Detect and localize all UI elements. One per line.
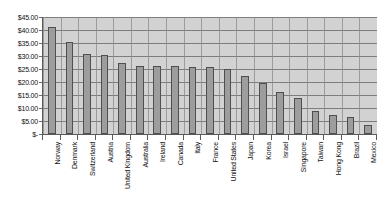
category-separator [61, 17, 62, 134]
x-axis-tick-mark [112, 135, 113, 140]
x-axis-category-label: United Kingdom [124, 142, 131, 189]
bar [171, 66, 179, 134]
x-axis-tick-mark [183, 135, 184, 140]
x-axis-tick-mark [165, 135, 166, 140]
bar [206, 67, 214, 134]
category-separator [78, 17, 79, 134]
bar [224, 69, 232, 134]
x-axis-category-label: Japan [247, 142, 254, 160]
category-separator [131, 17, 132, 134]
y-axis-tick-label: $30.00 [18, 53, 38, 60]
x-axis-tick-mark [253, 135, 254, 140]
x-axis-tick-mark [200, 135, 201, 140]
y-axis-tick-label: $15.00 [18, 92, 38, 99]
bar [364, 125, 372, 134]
category-separator [342, 17, 343, 134]
x-axis-category-label: Norway [54, 142, 61, 165]
y-axis: $45.00$40.00$35.00$30.00$25.00$20.00$15.… [0, 0, 42, 140]
category-separator [201, 17, 202, 134]
gridline [43, 56, 377, 57]
x-axis-category-label: Singapore [300, 142, 307, 172]
bar [83, 54, 91, 134]
y-axis-tick-label: $25.00 [18, 66, 38, 73]
bar [48, 27, 56, 134]
bar [276, 92, 284, 134]
x-axis-category-label: Mexico [370, 142, 377, 163]
category-separator [289, 17, 290, 134]
y-axis-tick-label: $10.00 [18, 105, 38, 112]
y-axis-tick-label: $5.00 [21, 118, 38, 125]
bar [259, 83, 267, 134]
category-separator [219, 17, 220, 134]
x-axis-tick-mark [77, 135, 78, 140]
category-separator [272, 17, 273, 134]
x-axis-tick-mark [235, 135, 236, 140]
y-axis-tick-label: $20.00 [18, 79, 38, 86]
category-separator [96, 17, 97, 134]
x-axis-tick-mark [147, 135, 148, 140]
x-axis-tick-mark [130, 135, 131, 140]
category-separator [166, 17, 167, 134]
gridline [43, 17, 377, 18]
y-axis-tick-label: $- [32, 131, 38, 138]
gridline [43, 43, 377, 44]
x-axis-category-label: Taiwan [317, 142, 324, 163]
x-axis-category-label: Austria [107, 142, 114, 162]
bar [118, 63, 126, 134]
x-axis-category-label: Brazil [353, 142, 360, 158]
x-axis-tick-mark [42, 135, 43, 140]
y-axis-tick-label: $35.00 [18, 40, 38, 47]
bar [329, 115, 337, 134]
bar [241, 76, 249, 134]
category-separator [324, 17, 325, 134]
x-axis-tick-mark [306, 135, 307, 140]
bar [101, 55, 109, 134]
y-axis-tick-label: $45.00 [18, 14, 38, 21]
x-axis-tick-mark [60, 135, 61, 140]
x-axis-category-label: Denmark [71, 142, 78, 169]
bar [153, 66, 161, 134]
category-separator [184, 17, 185, 134]
x-axis-category-label: France [212, 142, 219, 163]
x-axis-tick-mark [341, 135, 342, 140]
x-axis-category-label: Australia [142, 142, 149, 167]
category-separator [113, 17, 114, 134]
bar [189, 67, 197, 134]
x-axis-category-label: United States [230, 142, 237, 181]
category-separator [307, 17, 308, 134]
bar-chart: $45.00$40.00$35.00$30.00$25.00$20.00$15.… [0, 0, 379, 207]
category-separator [254, 17, 255, 134]
category-separator [148, 17, 149, 134]
bar [347, 117, 355, 134]
x-axis-category-label: Israel [282, 142, 289, 158]
category-separator [359, 17, 360, 134]
x-axis-category-label: Korea [265, 142, 272, 160]
bar [66, 42, 74, 134]
bar [294, 98, 302, 134]
gridline [43, 30, 377, 31]
bar [312, 111, 320, 134]
x-axis-tick-mark [323, 135, 324, 140]
x-axis-category-label: Italy [194, 142, 201, 154]
category-separator [236, 17, 237, 134]
x-axis-tick-mark [95, 135, 96, 140]
bar [136, 66, 144, 134]
plot-area [42, 17, 377, 135]
x-axis-tick-mark [288, 135, 289, 140]
x-axis-category-label: Switzerland [89, 142, 96, 176]
x-axis-category-label: Canada [177, 142, 184, 165]
x-axis-tick-mark [271, 135, 272, 140]
x-axis-tick-mark [358, 135, 359, 140]
x-axis-category-label: Ireland [159, 142, 166, 162]
x-axis-tick-mark [218, 135, 219, 140]
x-axis-tick-mark [376, 135, 377, 140]
category-separator [43, 17, 44, 134]
y-axis-tick-label: $40.00 [18, 27, 38, 34]
x-axis-category-label: Hong Kong [335, 142, 342, 175]
